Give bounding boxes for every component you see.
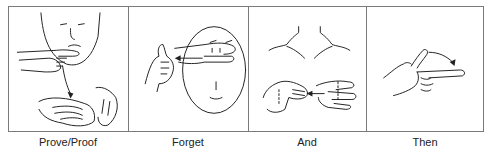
and-sign-illustration	[249, 7, 366, 131]
panel-forget	[129, 7, 249, 131]
caption-row: Prove/Proof Forget And Then	[8, 136, 484, 148]
panel-prove-proof	[9, 7, 129, 131]
forget-sign-illustration	[129, 7, 248, 131]
prove-proof-sign-illustration	[9, 7, 128, 131]
caption-then: Then	[366, 136, 484, 148]
caption-and: And	[248, 136, 366, 148]
caption-forget: Forget	[128, 136, 248, 148]
panel-then	[367, 7, 485, 131]
panel-and	[249, 7, 367, 131]
sign-illustration-strip	[8, 6, 484, 132]
then-sign-illustration	[367, 7, 485, 131]
caption-prove-proof: Prove/Proof	[8, 136, 128, 148]
